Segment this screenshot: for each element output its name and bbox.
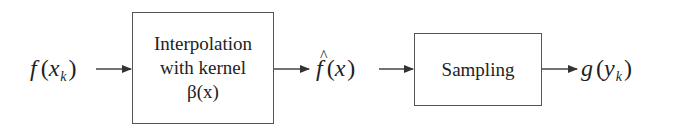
hat-func: ^f [316,54,323,82]
interpolation-line-1: Interpolation [154,32,252,56]
sampling-block: Sampling [414,33,542,106]
output-subscript: k [616,69,622,84]
input-signal-label: f(xk) [30,54,77,86]
sampling-block-text: Sampling [442,58,515,82]
output-func: g [581,55,593,81]
hat-mark: ^ [320,42,328,70]
interpolated-signal-label: ^f(x) [316,54,355,82]
input-func: f [30,55,37,81]
close-paren: ) [69,55,77,81]
close-paren: ) [347,55,355,81]
input-subscript: k [60,69,66,84]
interpolation-block-text: Interpolation with kernel β(x) [154,32,252,104]
signal-processing-block-diagram: f(xk) Interpolation with kernel β(x) ^f(… [0,0,673,127]
open-paren: ( [596,55,604,81]
interpolation-block: Interpolation with kernel β(x) [132,12,274,124]
input-var: x [49,55,60,81]
interpolation-line-3: β(x) [154,80,252,104]
interpolation-line-2: with kernel [154,56,252,80]
close-paren: ) [624,55,632,81]
output-signal-label: g(yk) [581,54,632,86]
intermediate-var: x [335,55,346,81]
open-paren: ( [41,55,49,81]
output-var: y [604,55,615,81]
